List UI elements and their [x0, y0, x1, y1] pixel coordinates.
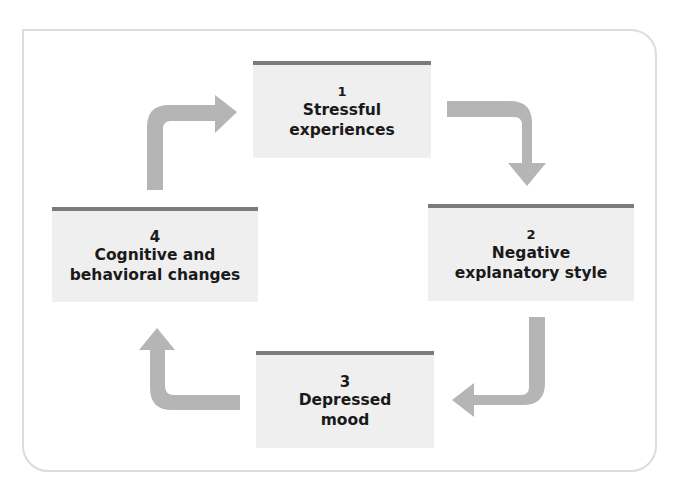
- arrow-2-to-3-icon: [452, 317, 545, 417]
- node-stressful-experiences: 1 Stressful experiences: [253, 61, 431, 158]
- node-number: 4: [150, 229, 160, 245]
- node-label-line1: Negative: [492, 243, 570, 263]
- node-number: 3: [340, 374, 350, 390]
- node-label-line2: experiences: [289, 120, 395, 140]
- node-negative-explanatory-style: 2 Negative explanatory style: [428, 204, 634, 301]
- node-label-line1: Depressed: [299, 390, 392, 410]
- arrow-1-to-2-icon: [447, 101, 546, 186]
- node-depressed-mood: 3 Depressed mood: [256, 351, 434, 448]
- node-number: 1: [337, 84, 346, 100]
- node-label-line1: Cognitive and: [95, 245, 216, 265]
- node-label-line2: explanatory style: [455, 263, 608, 283]
- node-label-line2: behavioral changes: [70, 265, 241, 285]
- arrow-4-to-1-icon: [147, 95, 237, 190]
- arrow-3-to-4-icon: [139, 328, 240, 410]
- node-number: 2: [526, 227, 535, 243]
- node-label-line1: Stressful: [303, 100, 381, 120]
- node-label-line2: mood: [321, 410, 370, 430]
- node-cognitive-behavioral-changes: 4 Cognitive and behavioral changes: [52, 207, 258, 302]
